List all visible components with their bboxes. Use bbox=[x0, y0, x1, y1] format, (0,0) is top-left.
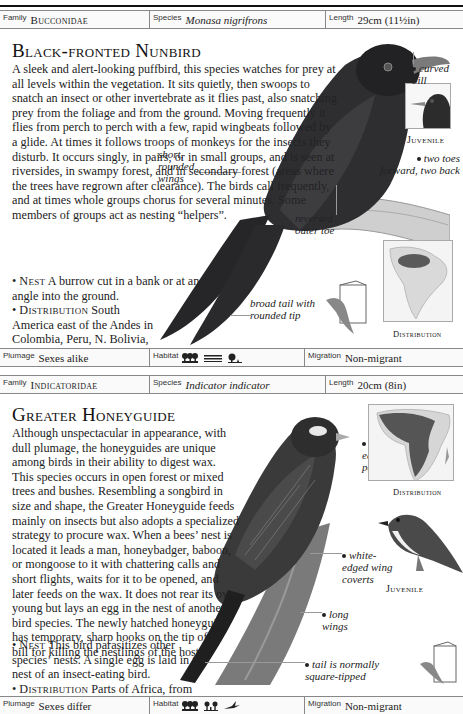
caption-curved-bill: curved bill bbox=[412, 62, 463, 86]
species-cell: Species Indicator indicator bbox=[150, 376, 326, 393]
length-value: 29cm (11½in) bbox=[357, 14, 419, 26]
scrub-icon bbox=[228, 353, 242, 363]
species-description: Although unspectacular in appearance, wi… bbox=[12, 426, 240, 660]
caption-dot bbox=[412, 67, 416, 71]
caption-toes: two toes forward, two back bbox=[380, 152, 460, 176]
family-value: Bucconidae bbox=[31, 14, 88, 26]
plumage-label: Plumage bbox=[3, 699, 35, 708]
caption-long-wings: long wings bbox=[322, 608, 358, 632]
habitat-icons bbox=[182, 353, 242, 363]
habitat-label: Habitat bbox=[153, 699, 178, 708]
plumage-label: Plumage bbox=[3, 351, 35, 360]
distribution-map bbox=[368, 404, 454, 481]
migration-value: Non-migrant bbox=[345, 700, 402, 712]
habitat-cell: Habitat bbox=[150, 349, 305, 366]
wetland-icon bbox=[204, 354, 222, 362]
family-label: Family bbox=[3, 378, 27, 387]
nest-fact: • Nest A burrow cut in a bank or at an a… bbox=[12, 274, 212, 303]
migration-cell: Migration Non-migrant bbox=[305, 697, 463, 714]
species-value: Indicator indicator bbox=[185, 379, 269, 391]
juvenile-label: Juvenile bbox=[407, 134, 444, 145]
habitat-cell: Habitat bbox=[150, 697, 305, 714]
plumage-cell: Plumage Sexes alike bbox=[0, 349, 150, 366]
length-label: Length bbox=[329, 13, 353, 22]
family-cell: Family Bucconidae bbox=[0, 11, 150, 28]
size-comparison-icon bbox=[322, 280, 372, 340]
distribution-label: Distribution bbox=[19, 682, 88, 696]
aerial-icon bbox=[224, 701, 240, 711]
nest-label: Nest bbox=[19, 274, 45, 288]
species-attributes-bar: Plumage Sexes alike Habitat Migration No… bbox=[0, 348, 463, 367]
distribution-label: Distribution bbox=[19, 303, 88, 317]
length-cell: Length 29cm (11½in) bbox=[326, 11, 463, 28]
species-info-bar: Family Indicatoridae Species Indicator i… bbox=[0, 375, 463, 394]
caption-dot bbox=[417, 157, 421, 161]
rainforest-icon bbox=[182, 353, 198, 363]
habitat-label: Habitat bbox=[153, 351, 178, 360]
south-america-map-icon bbox=[384, 241, 453, 322]
distribution-map-label: Distribution bbox=[393, 487, 442, 497]
family-cell: Family Indicatoridae bbox=[0, 376, 150, 393]
size-comparison-icon bbox=[418, 640, 463, 685]
leader-line bbox=[230, 315, 252, 316]
open-woodland-icon bbox=[204, 701, 218, 711]
species-value: Monasa nigrifrons bbox=[185, 14, 267, 26]
leader-line bbox=[300, 612, 322, 613]
migration-cell: Migration Non-migrant bbox=[305, 349, 463, 366]
caption-dot bbox=[362, 442, 366, 446]
juvenile-nunbird-icon bbox=[406, 84, 451, 129]
species-label: Species bbox=[153, 378, 181, 387]
migration-label: Migration bbox=[308, 699, 341, 708]
migration-label: Migration bbox=[308, 351, 341, 360]
length-label: Length bbox=[329, 378, 353, 387]
leader-line bbox=[310, 553, 342, 554]
plumage-cell: Plumage Sexes differ bbox=[0, 697, 150, 714]
leader-line bbox=[205, 662, 305, 663]
length-cell: Length 20cm (8in) bbox=[326, 376, 463, 393]
distribution-map bbox=[383, 240, 453, 322]
species-info-bar: Family Bucconidae Species Monasa nigrifr… bbox=[0, 10, 463, 29]
plumage-value: Sexes differ bbox=[39, 700, 92, 712]
species-description: A sleek and alert-looking puffbird, this… bbox=[12, 62, 337, 223]
description-text: A sleek and alert-looking puffbird, this… bbox=[12, 62, 337, 223]
migration-value: Non-migrant bbox=[345, 352, 402, 364]
description-text: Although unspectacular in appearance, wi… bbox=[12, 426, 240, 660]
caption-dot bbox=[322, 613, 326, 617]
family-label: Family bbox=[3, 13, 27, 22]
distribution-map-label: Distribution bbox=[393, 329, 442, 339]
species-attributes-bar: Plumage Sexes differ Habitat Migration N… bbox=[0, 696, 463, 714]
caption-tail: tail is normally square-tipped bbox=[305, 658, 385, 682]
caption-coverts: white-edged wing coverts bbox=[342, 549, 402, 585]
africa-map-icon bbox=[369, 405, 454, 481]
length-value: 20cm (8in) bbox=[357, 379, 406, 391]
running-head bbox=[0, 0, 463, 6]
nest-fact: • Nest This bird parasitizes other speci… bbox=[12, 638, 212, 682]
header-rule bbox=[0, 5, 463, 7]
leader-line bbox=[413, 52, 414, 64]
species-label: Species bbox=[153, 13, 181, 22]
nest-label: Nest bbox=[19, 638, 45, 652]
caption-dot bbox=[342, 554, 346, 558]
plumage-value: Sexes alike bbox=[39, 352, 89, 364]
family-value: Indicatoridae bbox=[31, 379, 98, 391]
species-cell: Species Monasa nigrifrons bbox=[150, 11, 326, 28]
habitat-icons bbox=[182, 701, 240, 711]
juvenile-inset bbox=[405, 83, 451, 129]
woodland-icon bbox=[182, 701, 198, 711]
caption-dot bbox=[305, 663, 309, 667]
